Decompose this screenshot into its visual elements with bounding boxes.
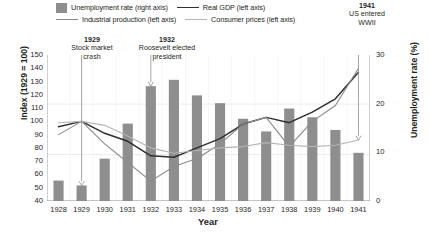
legend-item-consumer-prices: Consumer prices (left axis): [185, 15, 295, 24]
annotation-1932-line1: Roosevelt elected: [139, 44, 195, 52]
y-axis-left-tick-100: 100: [23, 116, 43, 125]
legend-label-unemployment: Unemployment rate (right axis): [71, 3, 168, 12]
x-axis-tick-1941: 1941: [343, 205, 373, 214]
x-axis-title: Year: [46, 216, 370, 227]
plot-area: [47, 55, 370, 201]
legend-item-unemployment: Unemployment rate (right axis): [56, 3, 168, 13]
y-axis-left-tick-120: 120: [23, 90, 43, 99]
y-axis-right-tick-30: 30: [376, 50, 396, 59]
bar-1939: [307, 117, 317, 201]
y-axis-left-tick-80: 80: [23, 143, 43, 152]
chart-legend: Unemployment rate (right axis) Real GDP …: [56, 2, 356, 26]
legend-label-industrial-production: Industrial production (left axis): [82, 15, 176, 24]
y-axis-left-tick-40: 40: [23, 196, 43, 205]
bar-1935: [215, 103, 225, 201]
y-axis-left-tick-50: 50: [23, 183, 43, 192]
legend-label-consumer-prices: Consumer prices (left axis): [211, 15, 295, 24]
bar-1930: [100, 159, 110, 201]
annotation-1929-year: 1929: [59, 36, 125, 44]
legend-bar-swatch-icon: [56, 3, 67, 13]
annotation-1929-line1: Stock market: [71, 44, 112, 52]
annotation-1941-line1: US entered: [349, 10, 385, 18]
legend-line-swatch-icon: [56, 19, 78, 20]
y-axis-left-tick-130: 130: [23, 77, 43, 86]
y-axis-left-tick-150: 150: [23, 50, 43, 59]
y-axis-right-tick-0: 0: [376, 196, 396, 205]
legend-item-industrial-production: Industrial production (left axis): [56, 15, 176, 24]
plot-svg: [47, 55, 370, 201]
y-axis-left-tick-60: 60: [23, 169, 43, 178]
bar-1940: [330, 130, 340, 201]
bar-1929: [77, 185, 87, 201]
y-axis-left-tick-90: 90: [23, 130, 43, 139]
legend-line-swatch-icon: [177, 7, 199, 8]
legend-item-real-gdp: Real GDP (left axis): [177, 3, 265, 12]
y-axis-right-title: Unemployment rate (%): [409, 25, 419, 155]
annotation-1941-year: 1941: [332, 2, 402, 10]
legend-label-real-gdp: Real GDP (left axis): [203, 3, 265, 12]
legend-line-swatch-icon: [185, 19, 207, 20]
bar-1936: [238, 119, 248, 201]
bar-1941: [353, 153, 363, 201]
bar-1932: [146, 86, 156, 201]
y-axis-right-tick-10: 10: [376, 147, 396, 156]
bar-1933: [169, 80, 179, 201]
chart-container: Unemployment rate (right axis) Real GDP …: [0, 0, 429, 242]
y-axis-left-tick-70: 70: [23, 156, 43, 165]
bar-1937: [261, 131, 271, 201]
annotation-1941: 1941 US entered WWII: [332, 2, 402, 27]
bar-1928: [53, 181, 63, 201]
annotation-1932-year: 1932: [128, 36, 206, 44]
y-axis-left-tick-110: 110: [23, 103, 43, 112]
y-axis-left-tick-140: 140: [23, 63, 43, 72]
annotation-1941-line2: WWII: [358, 19, 375, 27]
y-axis-right-tick-20: 20: [376, 99, 396, 108]
